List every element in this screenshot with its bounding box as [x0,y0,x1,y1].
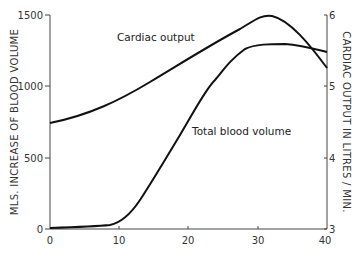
x-tick-0: 0 [47,235,53,246]
y-tick-1000: 1000 [18,81,43,92]
y-tick-0: 0 [37,224,43,235]
y2-tick-6: 6 [329,10,335,21]
left-ticks [45,15,50,229]
x-tick-20: 20 [182,235,195,246]
y-tick-1500: 1500 [18,10,43,21]
y-axis-label: MLS. INCREASE OF BLOOD VOLUME [9,29,20,215]
total-blood-volume-annotation: Total blood volume [191,125,291,137]
x-tick-30: 30 [252,235,265,246]
y2-tick-5: 5 [329,81,335,92]
y2-tick-4: 4 [329,153,335,164]
chart: 1500 1000 500 0 6 5 4 3 0 10 20 30 40 ML… [0,0,362,261]
y2-tick-3: 3 [329,224,335,235]
y-tick-500: 500 [24,153,43,164]
x-tick-40: 40 [319,235,332,246]
x-tick-10: 10 [113,235,126,246]
y2-axis-label: CARDIAC OUTPUT IN LITRES / MIN. [341,31,352,212]
cardiac-output-annotation: Cardiac output [117,31,195,43]
